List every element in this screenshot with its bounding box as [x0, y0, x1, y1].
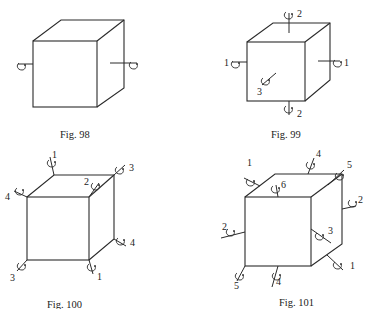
axis-label: 1 — [344, 57, 349, 68]
rotation-axis-98 — [17, 62, 138, 70]
figure-98: Fig. 98 — [17, 20, 138, 140]
caption-fig-100: Fig. 100 — [47, 299, 82, 309]
caption-fig-101: Fig. 101 — [279, 297, 314, 308]
axis-label: 6 — [281, 179, 286, 190]
axis-label: 3 — [129, 162, 134, 173]
cube-100 — [27, 175, 114, 260]
axis-label: 4 — [5, 191, 10, 202]
rotation-arrow-icon — [315, 233, 324, 240]
axis-label: 1 — [350, 260, 355, 271]
axis-label: 2 — [222, 221, 227, 232]
rotation-arrow-icon — [226, 229, 235, 236]
axis-label: 2 — [297, 8, 302, 19]
axis-label: 3 — [257, 86, 262, 97]
rotation-axes-101 — [221, 158, 357, 287]
axis-label: 4 — [130, 237, 135, 248]
axis-label: 1 — [247, 157, 252, 168]
axis-label: 3 — [328, 225, 333, 236]
axis-label: 5 — [234, 280, 239, 291]
axis-label: 1 — [52, 149, 57, 160]
axis-label: 1 — [97, 271, 102, 282]
caption-fig-98: Fig. 98 — [60, 129, 90, 140]
axis-label: 2 — [297, 108, 302, 119]
rotation-arrow-icon — [348, 200, 357, 207]
axis-label: 2 — [358, 194, 363, 205]
axis-label: 3 — [10, 272, 15, 283]
rotation-axes-99 — [231, 12, 342, 115]
caption-fig-99: Fig. 99 — [271, 129, 301, 140]
rotation-arrow-icon — [271, 186, 280, 193]
figure-101: 1 4 5 6 2 2 3 1 5 4 Fig. 101 — [221, 148, 363, 308]
axis-label: 2 — [84, 176, 89, 187]
axis-label: 5 — [347, 159, 352, 170]
cube-101 — [245, 174, 342, 266]
figure-100: 1 2 3 4 4 3 1 Fig. 100 — [5, 149, 135, 309]
axis-label: 4 — [276, 276, 281, 287]
figure-99: 1 1 2 2 3 Fig. 99 — [224, 8, 349, 140]
axis-label: 1 — [224, 57, 229, 68]
cube-symmetry-figures: Fig. 98 1 1 2 2 3 Fig. 99 — [0, 0, 372, 309]
axis-label: 4 — [316, 148, 321, 159]
